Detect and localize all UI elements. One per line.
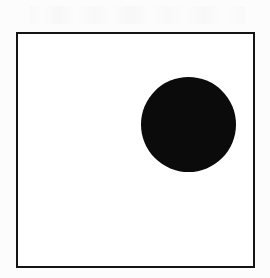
figure-root [0,0,270,278]
black-circle [141,77,236,172]
figure-canvas [18,34,253,266]
figure-frame [16,32,255,268]
scan-noise-artifact [30,6,245,24]
